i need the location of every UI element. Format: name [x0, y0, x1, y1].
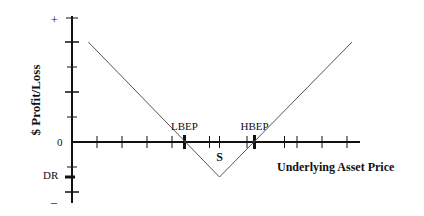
y-tick-label-zero: 0: [57, 136, 63, 148]
x-axis-label: Underlying Asset Price: [277, 160, 395, 174]
payoff-chart: $ Profit/Loss Underlying Asset Price + 0…: [0, 0, 424, 216]
y-axis-label: $ Profit/Loss: [28, 65, 43, 136]
annotation-label-strike: S: [216, 150, 223, 164]
y-tick-label-minus: –: [50, 195, 58, 209]
y-tick-label-plus: +: [51, 13, 58, 27]
labels-layer: $ Profit/Loss Underlying Asset Price + 0…: [28, 13, 395, 209]
annotation-label-lbep: LBEP: [171, 120, 198, 132]
y-tick-label-debit: DR: [43, 169, 59, 181]
axes: [65, 16, 360, 203]
annotation-label-hbep: HBEP: [240, 120, 268, 132]
